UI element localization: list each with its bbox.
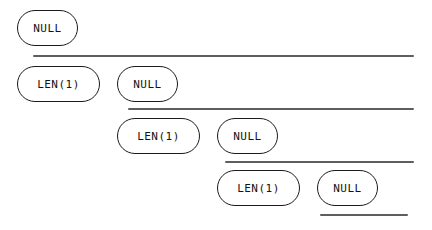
rule-line-3 <box>225 161 414 163</box>
node-len1-row4[interactable]: LEN(1) <box>217 170 300 206</box>
node-null-row1[interactable]: NULL <box>17 10 78 46</box>
node-label: NULL <box>333 181 362 194</box>
node-label: LEN(1) <box>237 181 280 194</box>
node-label: LEN(1) <box>37 77 80 90</box>
node-len1-row3[interactable]: LEN(1) <box>117 118 200 154</box>
node-null-row2[interactable]: NULL <box>117 66 178 102</box>
node-label: NULL <box>133 77 162 90</box>
rule-line-2 <box>128 108 414 110</box>
node-null-row4[interactable]: NULL <box>317 170 378 206</box>
node-len1-row2[interactable]: LEN(1) <box>17 66 100 102</box>
rule-line-4 <box>320 214 408 216</box>
rule-line-1 <box>33 55 414 57</box>
node-null-row3[interactable]: NULL <box>217 118 278 154</box>
node-label: LEN(1) <box>137 129 180 142</box>
node-label: NULL <box>33 21 62 34</box>
node-label: NULL <box>233 129 262 142</box>
diagram-canvas: NULL LEN(1) NULL LEN(1) NULL LEN(1) NULL <box>0 0 432 230</box>
